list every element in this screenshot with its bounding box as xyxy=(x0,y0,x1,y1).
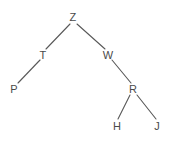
node-z[interactable]: Z xyxy=(70,12,77,23)
node-p[interactable]: P xyxy=(10,84,18,95)
node-w[interactable]: W xyxy=(103,50,114,61)
node-h[interactable]: H xyxy=(113,121,121,132)
node-t[interactable]: T xyxy=(40,50,47,61)
edge-r-j xyxy=(137,95,156,119)
edge-r-h xyxy=(118,95,130,119)
edge-t-p xyxy=(18,60,40,83)
edge-z-t xyxy=(46,24,70,49)
edge-z-w xyxy=(77,24,105,49)
edge-w-r xyxy=(112,60,131,83)
node-r[interactable]: R xyxy=(129,84,137,95)
node-j[interactable]: J xyxy=(154,121,160,132)
tree-diagram-canvas: ZTWPRHJ xyxy=(0,0,190,147)
edge-layer xyxy=(0,0,190,147)
